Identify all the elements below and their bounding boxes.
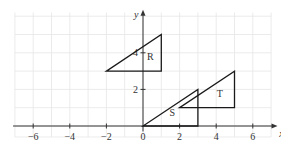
- y-axis-arrow-icon: [141, 10, 146, 16]
- y-axis-label: y: [133, 9, 139, 20]
- coordinate-diagram: xy−6−4−2024624 RST: [0, 0, 281, 152]
- x-tick-label: 2: [177, 131, 182, 142]
- x-tick-label: 0: [141, 131, 146, 142]
- x-tick-label: 6: [250, 131, 255, 142]
- triangles: RST: [106, 35, 234, 127]
- axes: xy−6−4−2024624: [13, 9, 281, 142]
- triangle-t-label: T: [217, 88, 223, 99]
- x-tick-label: 4: [214, 131, 219, 142]
- triangle-r-label: R: [147, 51, 154, 62]
- triangle-s-label: S: [169, 107, 175, 118]
- x-axis-arrow-icon: [272, 124, 278, 129]
- x-axis-label: x: [278, 128, 281, 139]
- y-tick-label: 2: [133, 84, 138, 95]
- x-tick-label: −2: [101, 131, 112, 142]
- x-tick-label: −6: [28, 131, 39, 142]
- x-tick-label: −4: [64, 131, 75, 142]
